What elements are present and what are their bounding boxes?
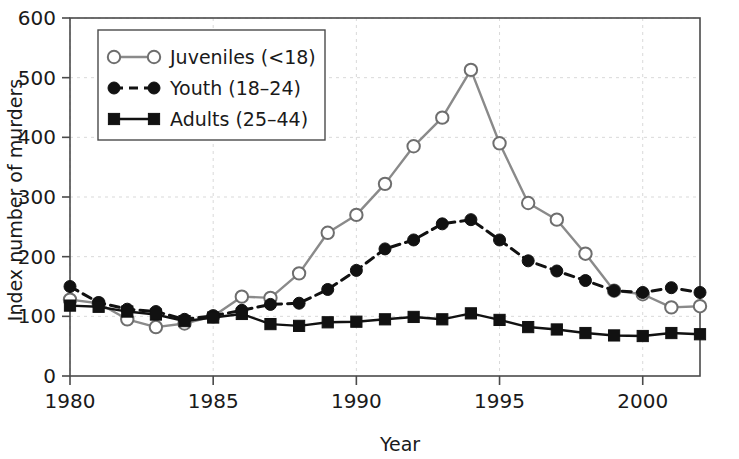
data-point-marker [551, 213, 563, 225]
x-tick-label: 2000 [617, 389, 668, 413]
data-point-marker [322, 283, 334, 295]
data-point-marker [407, 140, 419, 152]
data-point-marker [148, 82, 160, 94]
data-point-marker [522, 197, 534, 209]
data-point-marker [694, 286, 706, 298]
data-point-marker [579, 275, 591, 287]
x-axis-title: Year [379, 433, 420, 455]
data-point-marker [148, 51, 160, 63]
data-point-marker [408, 311, 419, 322]
data-point-marker [322, 317, 333, 328]
data-point-marker [666, 327, 677, 338]
y-tick-label: 600 [18, 6, 56, 30]
data-point-marker [236, 308, 247, 319]
data-point-marker [522, 255, 534, 267]
data-point-marker [293, 297, 305, 309]
data-point-marker [93, 301, 104, 312]
data-point-marker [494, 314, 505, 325]
data-point-marker [379, 243, 391, 255]
legend-item-label: Juveniles (<18) [169, 46, 316, 68]
data-point-marker [551, 324, 562, 335]
data-point-marker [122, 306, 133, 317]
data-point-marker [436, 218, 448, 230]
x-tick-label: 1990 [331, 389, 382, 413]
data-point-marker [465, 64, 477, 76]
data-point-marker [637, 330, 648, 341]
data-point-marker [465, 214, 477, 226]
data-point-marker [523, 321, 534, 332]
x-tick-label: 1995 [474, 389, 525, 413]
data-point-marker [148, 113, 159, 124]
data-point-marker [580, 327, 591, 338]
data-point-marker [108, 113, 119, 124]
data-point-marker [494, 234, 506, 246]
data-point-marker [493, 137, 505, 149]
data-point-marker [150, 309, 161, 320]
data-point-marker [293, 267, 305, 279]
data-point-marker [608, 285, 620, 297]
data-point-marker [236, 290, 248, 302]
data-point-marker [665, 282, 677, 294]
legend-item-label: Adults (25–44) [170, 108, 308, 130]
line-chart: 0100200300400500600 19801985199019952000… [0, 0, 739, 459]
data-point-marker [379, 314, 390, 325]
data-point-marker [350, 209, 362, 221]
data-point-marker [436, 111, 448, 123]
data-point-marker [694, 300, 706, 312]
data-point-marker [150, 321, 162, 333]
y-tick-label: 0 [43, 364, 56, 388]
data-point-marker [608, 330, 619, 341]
data-point-marker [637, 286, 649, 298]
data-point-marker [264, 298, 276, 310]
x-tick-label: 1980 [45, 389, 96, 413]
data-point-marker [465, 308, 476, 319]
data-point-marker [265, 318, 276, 329]
x-tick-label: 1985 [188, 389, 239, 413]
data-point-marker [64, 281, 76, 293]
data-point-marker [350, 264, 362, 276]
data-point-marker [64, 300, 75, 311]
y-axis-title: Index number of murders [4, 79, 26, 321]
legend-item-label: Youth (18–24) [169, 77, 301, 99]
data-point-marker [208, 312, 219, 323]
data-point-marker [293, 320, 304, 331]
data-point-marker [408, 234, 420, 246]
data-point-marker [108, 51, 120, 63]
data-point-marker [379, 178, 391, 190]
data-point-marker [551, 265, 563, 277]
data-point-marker [179, 316, 190, 327]
data-point-marker [322, 227, 334, 239]
data-point-marker [579, 247, 591, 259]
chart-figure: 0100200300400500600 19801985199019952000… [0, 0, 739, 459]
legend: Juveniles (<18)Youth (18–24)Adults (25–4… [98, 30, 325, 140]
data-point-marker [694, 329, 705, 340]
data-point-marker [665, 301, 677, 313]
data-point-marker [437, 314, 448, 325]
data-point-marker [351, 316, 362, 327]
data-point-marker [108, 82, 120, 94]
